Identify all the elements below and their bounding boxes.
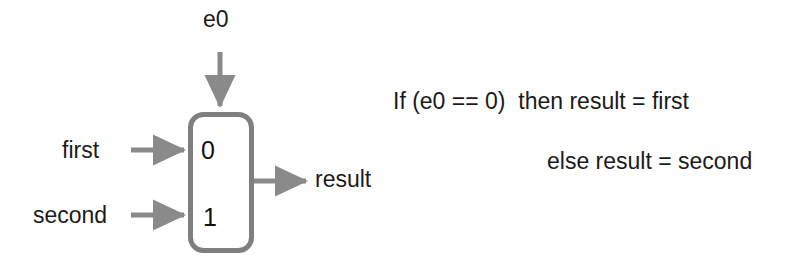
mux-port-1-label: 1 bbox=[203, 203, 217, 232]
select-signal-label: e0 bbox=[203, 8, 229, 31]
mux-box bbox=[191, 115, 252, 251]
pseudocode-line-if: If (e0 == 0) then result = first bbox=[393, 90, 689, 113]
input-first-label: first bbox=[62, 139, 99, 162]
input-second-label: second bbox=[33, 204, 107, 227]
diagram-canvas: e0 first second result 0 1 If (e0 == 0) … bbox=[0, 0, 806, 271]
mux-diagram-graphics bbox=[0, 0, 806, 271]
pseudocode-line-else: else result = second bbox=[547, 150, 752, 173]
mux-port-0-label: 0 bbox=[201, 136, 215, 165]
output-result-label: result bbox=[315, 168, 371, 191]
